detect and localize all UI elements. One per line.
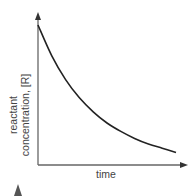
x-axis-label: time [96,168,116,180]
x-axis-arrow-icon [180,162,188,168]
y-axis-label: reactant concentration, [R] [4,60,34,170]
triangle-marker-icon [14,184,22,196]
y-axis-label-line-2: concentration, [R] [19,74,31,156]
y-axis-label-line-1: reactant [7,74,19,156]
decay-curve [38,25,176,152]
y-axis-arrow-icon [35,12,41,20]
